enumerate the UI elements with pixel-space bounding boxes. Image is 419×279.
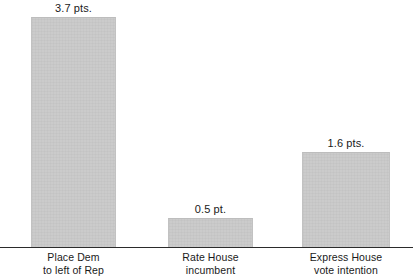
plot-area: 3.7 pts. 0.5 pt. 1.6 pts. bbox=[0, 0, 419, 248]
category-label-3-line2: vote intention bbox=[300, 264, 392, 277]
bar-value-label-3: 1.6 pts. bbox=[328, 137, 365, 149]
category-axis-labels: Place Dem to left of Rep Rate House incu… bbox=[0, 251, 419, 279]
bar-value-label-1: 3.7 pts. bbox=[55, 2, 92, 14]
bar-express-house-vote-intention[interactable] bbox=[302, 152, 390, 248]
bar-chart: 3.7 pts. 0.5 pt. 1.6 pts. Place Dem to l… bbox=[0, 0, 419, 279]
bar-group-1: 3.7 pts. bbox=[31, 17, 116, 248]
category-label-2: Rate House incumbent bbox=[168, 251, 253, 277]
bar-value-label-2: 0.5 pt. bbox=[195, 203, 226, 215]
bar-rate-house-incumbent[interactable] bbox=[168, 218, 253, 248]
category-label-1: Place Dem to left of Rep bbox=[31, 251, 116, 277]
category-label-1-line1: Place Dem bbox=[47, 251, 99, 263]
category-label-3-line1: Express House bbox=[310, 251, 383, 263]
category-label-2-line2: incumbent bbox=[168, 264, 253, 277]
category-label-1-line2: to left of Rep bbox=[31, 264, 116, 277]
x-axis-line bbox=[0, 247, 413, 248]
category-label-2-line1: Rate House bbox=[182, 251, 238, 263]
bar-place-dem-to-left-of-rep[interactable] bbox=[31, 17, 116, 248]
bar-group-3: 1.6 pts. bbox=[302, 152, 390, 248]
category-label-3: Express House vote intention bbox=[300, 251, 392, 277]
bar-group-2: 0.5 pt. bbox=[168, 218, 253, 248]
